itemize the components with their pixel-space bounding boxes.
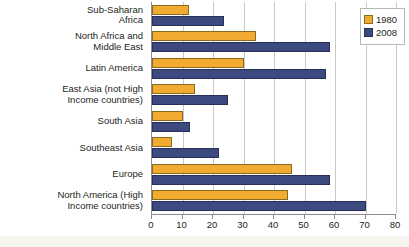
category-label: Sub-Saharan Africa [0,2,148,29]
bar-2008 [152,69,326,79]
bar-2008 [152,175,330,185]
bar-group [152,108,396,135]
bar-group [152,82,396,109]
bar-group [152,135,396,162]
bar-1980 [152,31,256,41]
category-label: North Africa and Middle East [0,29,148,56]
series-1980-swatch [364,15,373,24]
bar-2008 [152,16,224,26]
x-axis-tick-label: 70 [359,219,370,230]
x-axis-tick-label: 40 [268,219,279,230]
bar-2008 [152,42,330,52]
category-label: Europe [0,161,148,188]
bar-1980 [152,58,244,68]
x-axis-tick-label: 50 [298,219,309,230]
x-axis-tick-label: 20 [207,219,218,230]
bar-1980 [152,164,292,174]
x-axis-tick-label: 60 [329,219,340,230]
bar-1980 [152,190,288,200]
x-axis-tick-labels: 01020304050607080 [151,219,395,233]
bar-group [152,55,396,82]
chart-legend: 1980 2008 [360,8,405,45]
series-2008-swatch [364,28,373,37]
legend-label-2008: 2008 [376,27,397,38]
bar-1980 [152,84,195,94]
bar-1980 [152,5,189,15]
bar-group [152,188,396,215]
legend-item-2008: 2008 [364,27,402,38]
bar-1980 [152,137,172,147]
bar-2008 [152,122,190,132]
bar-group [152,161,396,188]
category-label: East Asia (not High Income countries) [0,82,148,109]
category-label: Southeast Asia [0,135,148,162]
category-label: South Asia [0,108,148,135]
bar-2008 [152,95,228,105]
category-label: North America (High Income countries) [0,188,148,215]
bar-1980 [152,111,183,121]
legend-label-1980: 1980 [376,14,397,25]
bar-2008 [152,201,366,211]
category-label-column: Sub-Saharan AfricaNorth Africa and Middl… [0,2,148,214]
x-axis-tick-label: 30 [237,219,248,230]
x-axis-tick-label: 80 [390,219,401,230]
x-axis-tick-label: 10 [176,219,187,230]
footer-strip [0,236,409,247]
legend-item-1980: 1980 [364,14,402,25]
grouped-bar-chart: Sub-Saharan AfricaNorth Africa and Middl… [0,0,409,247]
bar-2008 [152,148,219,158]
x-axis-tick-label: 0 [148,219,153,230]
category-label: Latin America [0,55,148,82]
